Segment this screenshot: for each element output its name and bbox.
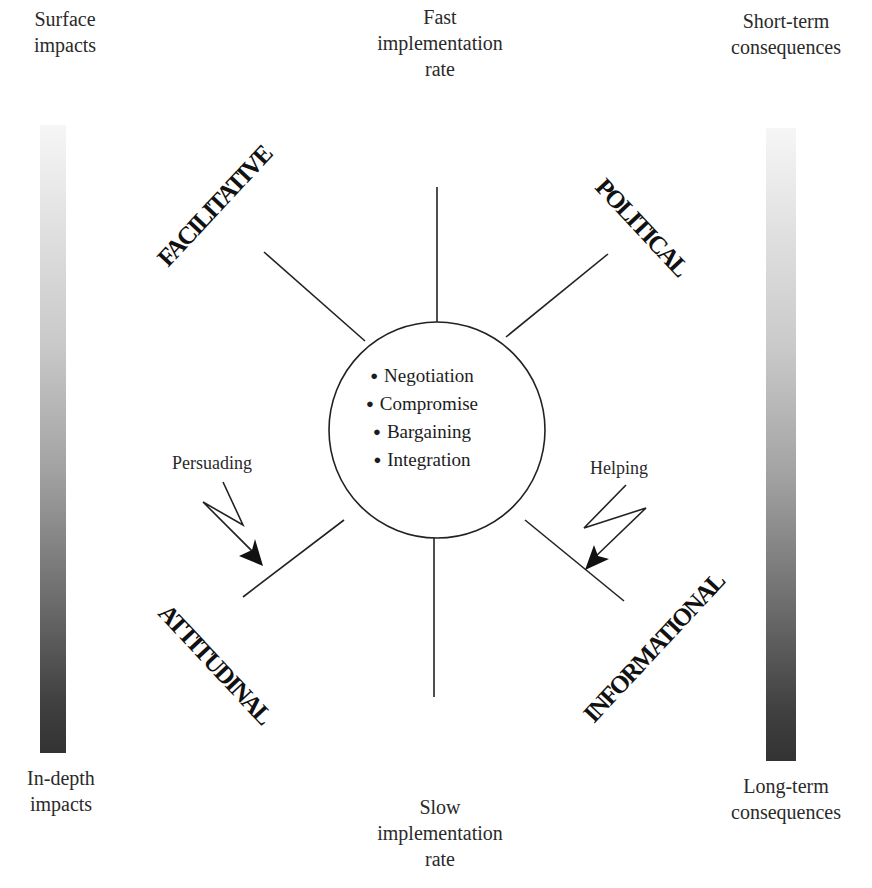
helping-label: Helping — [590, 458, 648, 479]
list-item: Integration — [352, 447, 492, 475]
center-approaches-list: Negotiation Compromise Bargaining Integr… — [352, 363, 492, 475]
spoke-top-right — [506, 254, 608, 337]
list-item: Compromise — [352, 391, 492, 419]
spoke-top-left — [264, 252, 365, 341]
category-attitudinal: ATTITUDINAL — [153, 599, 278, 730]
category-facilitative: FACILITATIVE — [152, 140, 278, 272]
category-informational: INFORMATIONAL — [578, 567, 730, 728]
category-political: POLITICAL — [590, 173, 694, 282]
list-item: Negotiation — [352, 363, 492, 391]
spoke-bottom-right — [525, 520, 624, 601]
persuading-label: Persuading — [172, 453, 252, 474]
helping-arrow-icon — [584, 485, 646, 570]
persuading-arrow-icon — [203, 482, 263, 566]
list-item: Bargaining — [352, 419, 492, 447]
